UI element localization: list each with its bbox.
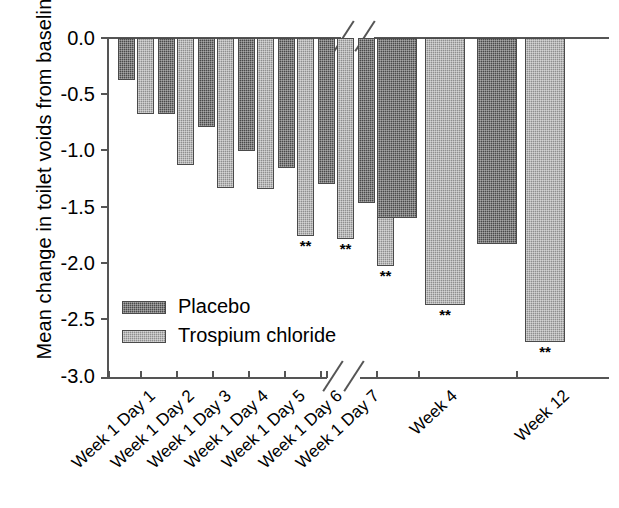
bar-placebo-2 bbox=[198, 38, 215, 127]
x-tick-mark-w12 bbox=[516, 371, 518, 378]
x-tick-mark-edge bbox=[108, 371, 110, 378]
bar-placebo-4 bbox=[278, 38, 295, 168]
x-tick-mark-t5 bbox=[284, 371, 286, 378]
significance-trospium-5: ** bbox=[321, 243, 371, 255]
x-axis-line-right bbox=[360, 377, 609, 379]
legend-label-trospium: Trospium chloride bbox=[178, 324, 336, 347]
significance-trospium-8: ** bbox=[520, 346, 570, 358]
bar-placebo-0 bbox=[118, 38, 135, 80]
y-tick-label-1: -0.5 bbox=[33, 84, 95, 104]
legend-label-placebo: Placebo bbox=[178, 295, 250, 318]
trospium-swatch bbox=[122, 330, 166, 343]
bar-trospium-8 bbox=[525, 38, 565, 342]
y-tick-mark-6 bbox=[101, 377, 108, 379]
bar-trospium-1 bbox=[177, 38, 194, 165]
bar-placebo-3 bbox=[238, 38, 255, 151]
y-tick-mark-2 bbox=[101, 149, 108, 151]
bar-trospium-4 bbox=[297, 38, 314, 236]
x-tick-mark-t6 bbox=[320, 371, 322, 378]
bar-placebo-6 bbox=[358, 38, 375, 203]
y-tick-label-3: -1.5 bbox=[33, 197, 95, 217]
placebo-swatch bbox=[122, 301, 166, 314]
bar-placebo-8 bbox=[477, 38, 517, 244]
bar-chart-figure: Mean change in toilet voids from baselin… bbox=[0, 0, 619, 508]
x-tick-mark-t4 bbox=[248, 371, 250, 378]
bar-trospium-2 bbox=[217, 38, 234, 188]
x-tick-mark-w4 bbox=[418, 371, 420, 378]
y-tick-mark-4 bbox=[101, 262, 108, 264]
significance-trospium-7: ** bbox=[420, 309, 470, 321]
significance-trospium-6: ** bbox=[361, 270, 411, 282]
y-tick-label-6: -3.0 bbox=[33, 366, 95, 386]
y-tick-mark-1 bbox=[101, 93, 108, 95]
y-tick-mark-3 bbox=[101, 206, 108, 208]
x-tick-mark-t7 bbox=[326, 371, 328, 378]
x-tick-mark-t3 bbox=[212, 371, 214, 378]
x-tick-mark-t1 bbox=[140, 371, 142, 378]
y-tick-mark-0 bbox=[101, 37, 108, 39]
axis-break-bottom-slash-2 bbox=[343, 360, 364, 391]
y-tick-mark-5 bbox=[101, 318, 108, 320]
bar-placebo-5 bbox=[318, 38, 335, 184]
y-tick-label-4: -2.0 bbox=[33, 253, 95, 273]
bar-trospium-3 bbox=[257, 38, 274, 189]
y-tick-label-2: -1.0 bbox=[33, 140, 95, 160]
chart-legend: Placebo Trospium chloride bbox=[122, 297, 372, 355]
x-tick-mark-edge2 bbox=[376, 371, 378, 378]
bar-trospium-0 bbox=[137, 38, 154, 114]
y-tick-label-5: -2.5 bbox=[33, 309, 95, 329]
bar-trospium-7 bbox=[425, 38, 465, 305]
bar-placebo-1 bbox=[158, 38, 175, 114]
y-tick-label-0: 0.0 bbox=[33, 28, 95, 48]
bar-trospium-5 bbox=[337, 38, 354, 239]
x-tick-mark-t2 bbox=[176, 371, 178, 378]
bar-placebo-7 bbox=[377, 38, 417, 218]
